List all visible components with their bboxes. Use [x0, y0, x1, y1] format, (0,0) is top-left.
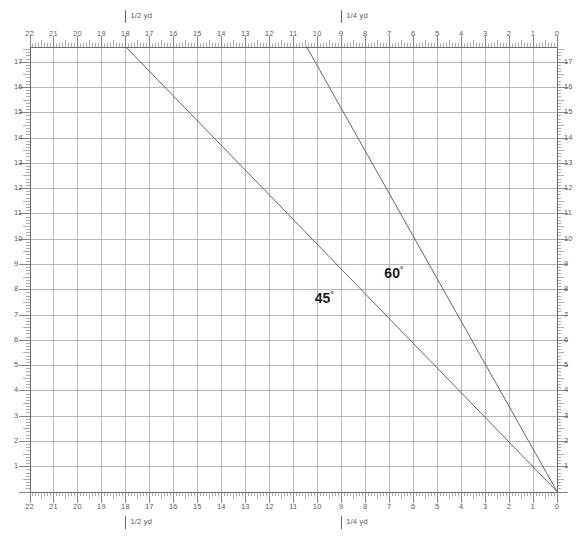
angle-line-60 [306, 47, 557, 492]
chart-canvas: 2222212120201919181817171616151514141313… [0, 0, 586, 544]
angle-label-60: 60° [384, 265, 403, 281]
half-yard-marker-bottom-tick [125, 516, 126, 529]
angle-label-45: 45° [315, 290, 334, 306]
quarter-yard-marker-top-tick [341, 10, 342, 23]
grid-group [30, 47, 558, 493]
degree-symbol-45: ° [330, 291, 333, 300]
angle-label-value-45: 45 [315, 290, 331, 306]
angle-label-value-60: 60 [384, 265, 400, 281]
graph-plot [0, 0, 586, 544]
degree-symbol-60: ° [400, 265, 403, 274]
quarter-yard-marker-bottom-tick [341, 516, 342, 529]
half-yard-marker-top-tick [125, 10, 126, 23]
